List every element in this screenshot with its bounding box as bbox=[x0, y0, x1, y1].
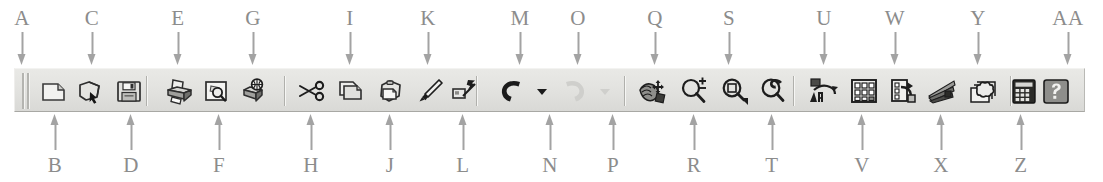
callout-label-H: H bbox=[303, 155, 319, 176]
leader-line-W bbox=[891, 32, 900, 66]
undo-arrow-icon bbox=[497, 76, 527, 106]
zoom-realtime-button[interactable] bbox=[677, 74, 711, 108]
leader-line-J bbox=[386, 114, 395, 150]
tool-palettes-button[interactable] bbox=[887, 74, 921, 108]
zoom-previous-icon bbox=[759, 76, 789, 106]
callout-label-F: F bbox=[213, 155, 225, 176]
cut-button[interactable] bbox=[295, 74, 329, 108]
zoom-realtime-icon bbox=[679, 76, 709, 106]
leader-line-Z bbox=[1017, 114, 1026, 150]
leader-line-D bbox=[127, 114, 136, 150]
calculator-button[interactable] bbox=[1007, 74, 1041, 108]
callout-label-Z: Z bbox=[1014, 155, 1027, 176]
leader-line-U bbox=[820, 32, 829, 66]
callout-label-W: W bbox=[885, 8, 905, 29]
leader-line-R bbox=[690, 114, 699, 150]
callout-label-AA: AA bbox=[1052, 8, 1083, 29]
callout-label-R: R bbox=[687, 155, 702, 176]
callout-label-B: B bbox=[48, 155, 63, 176]
plot-button[interactable] bbox=[162, 74, 196, 108]
undo-dropdown[interactable] bbox=[534, 74, 550, 108]
leader-line-L bbox=[459, 114, 468, 150]
leader-line-Q bbox=[651, 32, 660, 66]
callout-label-I: I bbox=[346, 8, 354, 29]
redo-arrow-icon bbox=[559, 76, 589, 106]
redo-dropdown[interactable] bbox=[597, 74, 613, 108]
zoom-window-icon bbox=[719, 76, 749, 106]
standard-toolbar[interactable] bbox=[14, 68, 1085, 112]
leader-line-H bbox=[307, 114, 316, 150]
block-editor-button[interactable] bbox=[447, 74, 481, 108]
help-button[interactable] bbox=[1039, 74, 1073, 108]
callout-label-D: D bbox=[123, 155, 139, 176]
copy-button[interactable] bbox=[335, 74, 369, 108]
chevron-down-icon bbox=[598, 84, 612, 98]
leader-line-N bbox=[546, 114, 555, 150]
design-center-button[interactable] bbox=[847, 74, 881, 108]
toolbar-separator bbox=[624, 76, 625, 106]
open-folder-icon bbox=[77, 76, 107, 106]
leader-line-Y bbox=[974, 32, 983, 66]
quick-edit-icon bbox=[449, 76, 479, 106]
callout-label-M: M bbox=[510, 8, 529, 29]
scissors-icon bbox=[297, 76, 327, 106]
properties-button[interactable] bbox=[806, 74, 840, 108]
publish-button[interactable] bbox=[238, 74, 272, 108]
callout-label-E: E bbox=[171, 8, 184, 29]
callout-label-Q: Q bbox=[647, 8, 663, 29]
leader-line-C bbox=[88, 32, 97, 66]
zoom-previous-button[interactable] bbox=[757, 74, 791, 108]
leader-line-V bbox=[858, 114, 867, 150]
toolbar-grip-handle[interactable] bbox=[21, 73, 32, 109]
leader-line-AA bbox=[1064, 32, 1073, 66]
paste-button[interactable] bbox=[374, 74, 408, 108]
new-button[interactable] bbox=[37, 74, 71, 108]
callout-label-Y: Y bbox=[970, 8, 986, 29]
markup-cloud-icon bbox=[968, 76, 998, 106]
pan-hand-icon bbox=[637, 76, 667, 106]
leader-line-T bbox=[768, 114, 777, 150]
callout-label-P: P bbox=[607, 155, 619, 176]
toolbar-separator bbox=[284, 76, 285, 106]
new-document-icon bbox=[39, 76, 69, 106]
calculator-icon bbox=[1009, 76, 1039, 106]
pan-realtime-button[interactable] bbox=[635, 74, 669, 108]
callout-label-T: T bbox=[765, 155, 778, 176]
callout-label-J: J bbox=[386, 155, 395, 176]
sheet-set-icon bbox=[928, 76, 958, 106]
save-button[interactable] bbox=[112, 74, 146, 108]
design-center-icon bbox=[849, 76, 879, 106]
copy-pages-icon bbox=[337, 76, 367, 106]
figure-canvas: A C E G I K M O Q S U W Y AA B D F H J L… bbox=[0, 0, 1103, 182]
toolbar-separator bbox=[793, 76, 794, 106]
callout-label-K: K bbox=[420, 8, 436, 29]
question-mark-icon bbox=[1041, 76, 1071, 106]
leader-line-S bbox=[725, 32, 734, 66]
callout-label-S: S bbox=[723, 8, 735, 29]
leader-line-P bbox=[609, 114, 618, 150]
zoom-window-button[interactable] bbox=[717, 74, 751, 108]
leader-line-X bbox=[937, 114, 946, 150]
leader-line-M bbox=[516, 32, 525, 66]
undo-button[interactable] bbox=[495, 74, 529, 108]
callout-label-V: V bbox=[854, 155, 870, 176]
leader-line-G bbox=[249, 32, 258, 66]
plot-preview-button[interactable] bbox=[200, 74, 234, 108]
redo-button[interactable] bbox=[557, 74, 591, 108]
toolbar-separator bbox=[146, 76, 147, 106]
print-preview-icon bbox=[202, 76, 232, 106]
callout-label-L: L bbox=[456, 155, 469, 176]
markup-set-button[interactable] bbox=[966, 74, 1000, 108]
match-properties-button[interactable] bbox=[413, 74, 447, 108]
callout-label-N: N bbox=[542, 155, 558, 176]
callout-label-A: A bbox=[14, 8, 30, 29]
callout-label-U: U bbox=[816, 8, 832, 29]
leader-line-I bbox=[346, 32, 355, 66]
chevron-down-icon bbox=[535, 84, 549, 98]
open-button[interactable] bbox=[75, 74, 109, 108]
paintbrush-icon bbox=[415, 76, 445, 106]
sheet-set-button[interactable] bbox=[926, 74, 960, 108]
leader-line-B bbox=[51, 114, 60, 150]
callout-label-O: O bbox=[570, 8, 586, 29]
printer-icon bbox=[164, 76, 194, 106]
